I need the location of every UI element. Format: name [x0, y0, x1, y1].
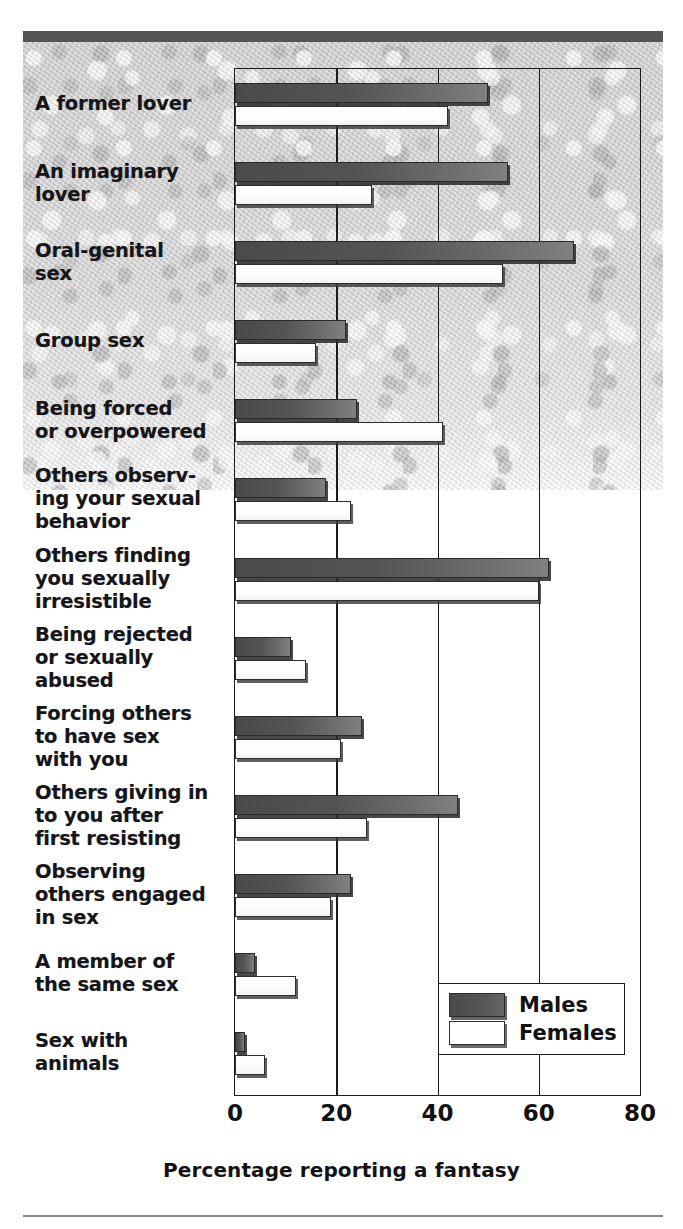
- legend-entry-females: Females: [449, 1020, 617, 1046]
- bar-females-10: [235, 897, 331, 917]
- category-label-2: Oral-genital sex: [35, 239, 164, 285]
- category-label-10: Observing others engaged in sex: [35, 860, 205, 929]
- top-rule: [23, 31, 663, 42]
- legend-label-females: Females: [519, 1021, 617, 1045]
- category-label-9: Others giving in to you after first resi…: [35, 781, 208, 850]
- x-axis-title: Percentage reporting a fantasy: [0, 1158, 683, 1182]
- category-label-6: Others finding you sexually irresistible: [35, 544, 191, 613]
- bar-males-3: [235, 320, 346, 340]
- bar-females-2: [235, 264, 503, 284]
- bar-males-11: [235, 953, 255, 973]
- chart-legend: Males Females: [438, 983, 625, 1055]
- gridline-60: [539, 69, 541, 1095]
- x-tick-label-80: 80: [624, 1100, 656, 1126]
- category-label-1: An imaginary lover: [35, 160, 179, 206]
- category-label-3: Group sex: [35, 329, 144, 352]
- x-tick-label-0: 0: [227, 1100, 243, 1126]
- category-label-7: Being rejected or sexually abused: [35, 623, 192, 692]
- bar-females-6: [235, 581, 539, 601]
- category-label-0: A former lover: [35, 92, 191, 115]
- bar-females-3: [235, 343, 316, 363]
- category-label-12: Sex with animals: [35, 1029, 128, 1075]
- category-label-column: A former loverAn imaginary loverOral-gen…: [35, 68, 231, 1096]
- x-axis-tick-labels: 020406080: [0, 1100, 683, 1130]
- bar-females-0: [235, 106, 448, 126]
- legend-label-males: Males: [519, 993, 588, 1017]
- bar-males-7: [235, 637, 291, 657]
- bar-females-1: [235, 185, 372, 205]
- bar-females-7: [235, 660, 306, 680]
- bar-males-0: [235, 83, 488, 103]
- x-tick-label-20: 20: [320, 1100, 352, 1126]
- bar-females-11: [235, 976, 296, 996]
- bar-males-2: [235, 241, 574, 261]
- bar-females-9: [235, 818, 367, 838]
- bar-males-6: [235, 558, 549, 578]
- legend-swatch-females-icon: [449, 1021, 505, 1045]
- bar-males-9: [235, 795, 458, 815]
- bar-males-10: [235, 874, 351, 894]
- bar-males-12: [235, 1032, 245, 1052]
- category-label-11: A member of the same sex: [35, 950, 178, 996]
- bar-females-4: [235, 422, 443, 442]
- figure-container: A former loverAn imaginary loverOral-gen…: [0, 0, 683, 1229]
- bar-males-5: [235, 478, 326, 498]
- bar-females-8: [235, 739, 341, 759]
- legend-swatch-males-icon: [449, 993, 505, 1017]
- plot-area: [234, 68, 641, 1096]
- x-tick-label-60: 60: [523, 1100, 555, 1126]
- bar-females-5: [235, 501, 351, 521]
- bottom-rule: [23, 1215, 663, 1217]
- bar-males-1: [235, 162, 508, 182]
- legend-entry-males: Males: [449, 992, 588, 1018]
- bar-males-4: [235, 399, 357, 419]
- category-label-5: Others observ- ing your sexual behavior: [35, 464, 201, 533]
- bar-males-8: [235, 716, 362, 736]
- x-tick-label-40: 40: [421, 1100, 453, 1126]
- category-label-4: Being forced or overpowered: [35, 397, 206, 443]
- bar-females-12: [235, 1055, 265, 1075]
- category-label-8: Forcing others to have sex with you: [35, 702, 192, 771]
